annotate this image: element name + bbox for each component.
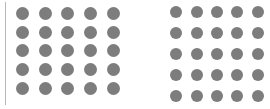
dot — [231, 48, 243, 60]
dot — [39, 26, 52, 39]
dot — [231, 6, 243, 18]
dot — [61, 44, 74, 57]
dot — [61, 63, 74, 76]
dot — [252, 48, 264, 60]
dot — [211, 90, 223, 102]
dot — [16, 63, 29, 76]
dot — [107, 7, 120, 20]
dot — [84, 82, 97, 95]
dot — [39, 7, 52, 20]
dot — [231, 69, 243, 81]
dot — [84, 63, 97, 76]
dot — [170, 27, 182, 39]
dot — [61, 26, 74, 39]
dot — [170, 48, 182, 60]
dot — [231, 27, 243, 39]
vertical-rule-divider — [5, 2, 6, 105]
dot — [252, 27, 264, 39]
dot — [191, 69, 203, 81]
dot — [107, 26, 120, 39]
dot — [191, 48, 203, 60]
right-dot-grid — [166, 2, 268, 106]
dot — [16, 26, 29, 39]
dot — [16, 44, 29, 57]
dot — [16, 82, 29, 95]
dot — [211, 69, 223, 81]
left-dot-grid — [11, 4, 125, 98]
dot — [191, 90, 203, 102]
dot — [211, 6, 223, 18]
dot — [252, 90, 264, 102]
dot — [252, 6, 264, 18]
dot — [39, 82, 52, 95]
dot — [170, 6, 182, 18]
dot — [84, 26, 97, 39]
dot — [84, 44, 97, 57]
dot — [107, 63, 120, 76]
dot — [211, 48, 223, 60]
dot — [231, 90, 243, 102]
dot — [252, 69, 264, 81]
dot — [16, 7, 29, 20]
dot — [39, 63, 52, 76]
dot — [191, 27, 203, 39]
dot — [61, 7, 74, 20]
dot — [39, 44, 52, 57]
dot — [211, 27, 223, 39]
dot — [61, 82, 74, 95]
diagram-canvas — [0, 0, 270, 109]
dot — [170, 69, 182, 81]
dot — [107, 82, 120, 95]
dot — [107, 44, 120, 57]
dot — [84, 7, 97, 20]
dot — [191, 6, 203, 18]
dot — [170, 90, 182, 102]
